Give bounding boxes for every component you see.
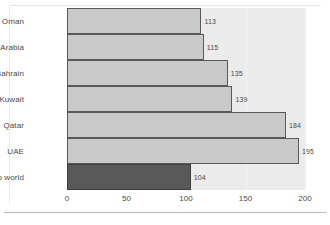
bar-value-label: 115: [207, 44, 218, 51]
tick-label-50: 50: [122, 194, 131, 203]
bar-value-label: 139: [235, 96, 247, 103]
category-label-qatar: Qatar: [3, 121, 24, 130]
bar-value-label: 195: [302, 148, 314, 155]
category-label-kuwait: Kuwait: [0, 95, 24, 104]
bar-row: 115: [67, 34, 305, 60]
bar-chart-figure: 113115135139184195104 OmanSaudi ArabiaBa…: [0, 0, 330, 225]
bar-value-label: 113: [204, 18, 215, 25]
tick-label-0: 0: [65, 194, 69, 203]
bar-qatar[interactable]: [67, 112, 286, 138]
bar-row: 113: [67, 8, 305, 34]
figure-bottom-border: [4, 212, 326, 213]
bar-row: 135: [67, 60, 305, 86]
gridline-200: [305, 8, 306, 190]
bar-bahrain[interactable]: [67, 60, 228, 86]
category-label-bahrain: Bahrain: [0, 69, 24, 78]
bar-row: 139: [67, 86, 305, 112]
bar-kuwait[interactable]: [67, 86, 232, 112]
bar-row: 184: [67, 112, 305, 138]
tick-label-200: 200: [298, 194, 311, 203]
category-label-saudi-arabia: Saudi Arabia: [0, 43, 24, 52]
bar-arab-world[interactable]: [67, 164, 191, 190]
bar-saudi-arabia[interactable]: [67, 34, 204, 60]
bar-uae[interactable]: [67, 138, 299, 164]
bar-row: 104: [67, 164, 305, 190]
bar-row: 195: [67, 138, 305, 164]
category-label-arab-world: Arab world: [0, 173, 24, 182]
bar-value-label: 135: [231, 70, 243, 77]
plot-area: 113115135139184195104: [67, 8, 305, 190]
bar-value-label: 104: [194, 174, 206, 181]
bar-value-label: 184: [289, 122, 301, 129]
bar-oman[interactable]: [67, 8, 201, 34]
category-label-uae: UAE: [7, 147, 24, 156]
tick-label-100: 100: [179, 194, 192, 203]
figure-top-border: [9, 5, 321, 6]
category-label-oman: Oman: [2, 17, 24, 26]
tick-label-150: 150: [239, 194, 252, 203]
